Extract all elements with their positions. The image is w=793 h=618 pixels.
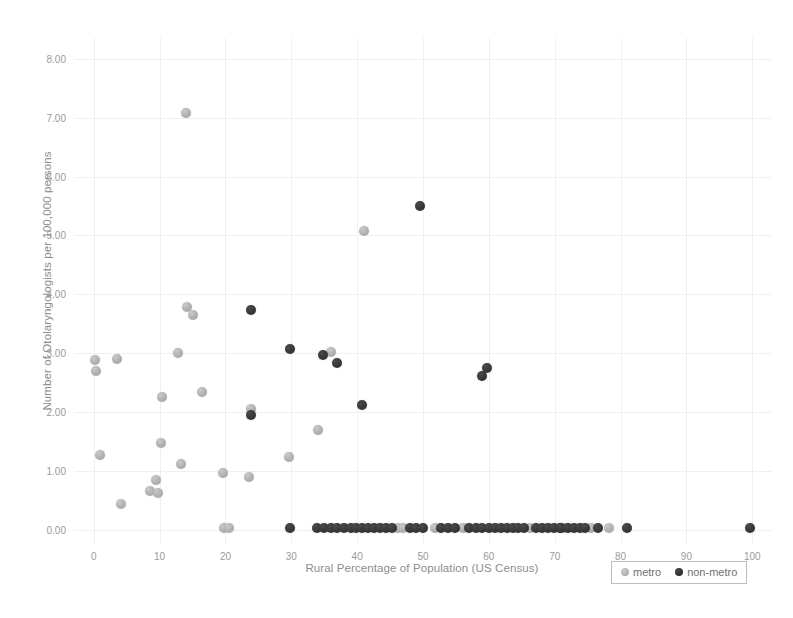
data-point-non-metro: [450, 523, 460, 533]
legend-marker-non-metro-icon: [675, 568, 683, 576]
x-axis-tick-label: 30: [271, 551, 311, 562]
y-axis-tick-label: 4.00: [22, 289, 66, 300]
data-point-non-metro: [387, 523, 397, 533]
data-point-non-metro: [622, 523, 632, 533]
data-point-metro: [176, 459, 186, 469]
grid-line-horizontal: [74, 471, 772, 472]
data-point-metro: [157, 392, 167, 402]
data-point-metro: [116, 499, 126, 509]
data-point-non-metro: [246, 410, 256, 420]
grid-line-vertical: [621, 38, 622, 545]
data-point-non-metro: [745, 523, 755, 533]
grid-line-vertical: [423, 38, 424, 545]
grid-line-vertical: [94, 38, 95, 545]
data-point-non-metro: [415, 201, 425, 211]
grid-line-horizontal: [74, 235, 772, 236]
data-point-metro: [313, 425, 323, 435]
data-point-metro: [95, 450, 105, 460]
data-point-metro: [604, 523, 614, 533]
y-axis-tick-label: 1.00: [22, 466, 66, 477]
data-point-metro: [156, 438, 166, 448]
data-point-metro: [91, 366, 101, 376]
data-point-metro: [151, 475, 161, 485]
grid-line-horizontal: [74, 177, 772, 178]
data-point-non-metro: [246, 305, 256, 315]
x-axis-tick-label: 70: [535, 551, 575, 562]
data-point-non-metro: [332, 358, 342, 368]
data-point-metro: [153, 488, 163, 498]
grid-line-vertical: [489, 38, 490, 545]
data-point-metro: [218, 468, 228, 478]
grid-line-vertical: [160, 38, 161, 545]
legend-marker-metro-icon: [621, 568, 629, 576]
x-axis-tick-label: 60: [469, 551, 509, 562]
data-point-non-metro: [519, 523, 529, 533]
data-point-metro: [173, 348, 183, 358]
data-point-metro: [90, 355, 100, 365]
data-point-metro: [112, 354, 122, 364]
grid-line-vertical: [686, 38, 687, 545]
data-point-non-metro: [580, 523, 590, 533]
y-axis-tick-label: 7.00: [22, 112, 66, 123]
legend-label: metro: [633, 566, 661, 578]
x-axis-tick-label: 50: [403, 551, 443, 562]
grid-line-vertical: [357, 38, 358, 545]
data-point-metro: [284, 452, 294, 462]
y-axis-tick-label: 2.00: [22, 407, 66, 418]
plot-area: [74, 38, 772, 545]
y-axis-label: Number of Otolaryngologists per 100,000 …: [41, 116, 53, 446]
grid-line-vertical: [291, 38, 292, 545]
data-point-non-metro: [418, 523, 428, 533]
chart-legend[interactable]: metronon-metro: [611, 561, 747, 584]
data-point-non-metro: [482, 363, 492, 373]
y-axis-tick-label: 3.00: [22, 348, 66, 359]
x-axis-tick-label: 10: [140, 551, 180, 562]
data-point-metro: [224, 523, 234, 533]
scatter-chart-figure: Number of Otolaryngologists per 100,000 …: [0, 0, 793, 618]
data-point-metro: [359, 226, 369, 236]
y-axis-tick-label: 8.00: [22, 53, 66, 64]
grid-line-horizontal: [74, 59, 772, 60]
x-axis-tick-label: 0: [74, 551, 114, 562]
data-point-metro: [197, 387, 207, 397]
data-point-non-metro: [285, 344, 295, 354]
data-point-non-metro: [357, 400, 367, 410]
x-axis-tick-label: 40: [337, 551, 377, 562]
data-point-non-metro: [593, 523, 603, 533]
y-axis-tick-label: 5.00: [22, 230, 66, 241]
grid-line-horizontal: [74, 294, 772, 295]
grid-line-vertical: [752, 38, 753, 545]
legend-item-non-metro[interactable]: non-metro: [675, 566, 737, 578]
data-point-non-metro: [318, 350, 328, 360]
x-axis-tick-label: 20: [205, 551, 245, 562]
y-axis-tick-label: 0.00: [22, 525, 66, 536]
y-axis-tick-label: 6.00: [22, 171, 66, 182]
data-point-metro: [244, 472, 254, 482]
grid-line-vertical: [555, 38, 556, 545]
data-point-metro: [181, 108, 191, 118]
legend-item-metro[interactable]: metro: [621, 566, 661, 578]
grid-line-horizontal: [74, 412, 772, 413]
grid-line-horizontal: [74, 118, 772, 119]
data-point-non-metro: [285, 523, 295, 533]
data-point-metro: [188, 310, 198, 320]
legend-label: non-metro: [687, 566, 737, 578]
